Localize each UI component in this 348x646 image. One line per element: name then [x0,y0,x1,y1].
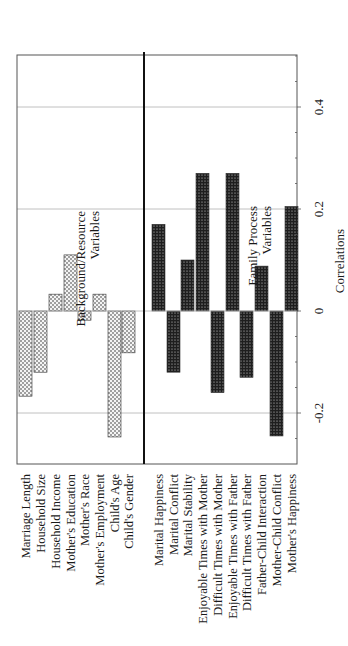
correlation-bar-chart: Background/Resource Variables Family Pro… [0,0,348,646]
category-label: Enjoyable Times with Father [226,473,240,619]
category-label: Mother's Race [78,474,92,546]
bar-child-s-age [108,311,121,437]
category-label: Mother's Employment [93,473,107,585]
bar-mother-s-employment [93,294,106,311]
annotation-family-line1: Family Process [245,206,260,286]
bar-household-size [34,311,47,372]
bar-household-income [49,294,62,311]
category-label: Household Size [34,474,48,553]
category-label: Child's Age [108,474,122,533]
category-label: Mother's Education [64,473,78,571]
category-label: Marital Happiness [152,474,166,566]
bars-family-process [152,173,298,436]
category-label: Difficult Times with Father [240,473,254,611]
category-label: Father-Child Interaction [255,473,269,595]
category-label: Difficult Times with Mother [211,473,225,616]
category-labels-family-process: Marital HappinessMarital ConflictMarital… [152,473,299,623]
tick-label-0: 0 [311,308,326,315]
category-label: Mother's Happiness [285,474,299,573]
category-labels-background-resource: Marriage LengthHousehold SizeHousehold I… [19,473,136,585]
tick-label-0-4: 0.4 [311,98,326,115]
group-annotation-family-process: Family Process Variables [245,206,274,286]
category-label: Marital Stability [181,473,195,556]
bar-difficult-times-with-father [240,311,253,377]
category-label: Child's Gender [122,473,136,549]
bar-mother-child-conflict [270,311,283,436]
category-label: Household Income [49,474,63,569]
category-label: Marriage Length [19,473,33,558]
bar-marital-stability [181,260,194,311]
bar-child-s-gender [122,311,135,353]
tick-label-neg-0-2: -0.2 [311,403,326,424]
category-label: Enjoyable Times with Mother [196,473,210,623]
bar-marital-happiness [152,224,165,311]
bar-mother-s-happiness [285,206,298,311]
tick-label-0-2: 0.2 [311,201,326,217]
category-label: Marital Conflict [167,473,181,554]
bar-enjoyable-times-with-mother [196,173,209,311]
annotation-background-line2: Variables [87,211,102,259]
category-label: Mother-Child Conflict [270,473,284,586]
bar-marital-conflict [167,311,180,372]
annotation-background-line1: Background/Resource [73,211,88,327]
bar-difficult-times-with-mother [211,311,224,393]
bar-marriage-length [19,311,32,396]
y-tick-labels: -0.2 0 0.2 0.4 [311,98,326,423]
bar-enjoyable-times-with-father [226,173,239,311]
annotation-family-line2: Variables [259,206,274,254]
axis-label-correlations: Correlations [332,229,347,293]
